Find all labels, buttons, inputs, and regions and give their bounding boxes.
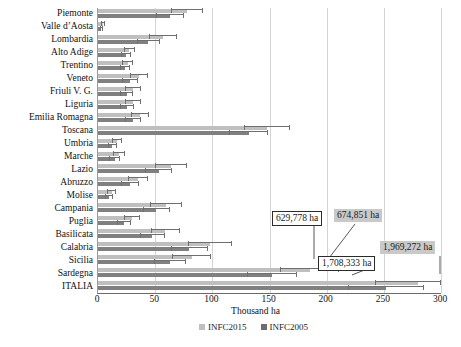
y-tick-label: Emilia Romagna xyxy=(29,112,93,122)
error-bar xyxy=(140,234,165,240)
legend-item-infc2015: INFC2015 xyxy=(199,322,247,332)
bar-row xyxy=(98,8,441,21)
bar-row xyxy=(98,267,441,280)
y-tick-label: Toscana xyxy=(62,125,93,135)
error-bar xyxy=(100,27,103,33)
error-bar xyxy=(108,144,117,150)
bar-row xyxy=(98,280,441,293)
bar-row xyxy=(98,112,441,125)
legend: INFC2015 INFC2005 xyxy=(0,322,461,332)
error-bar xyxy=(109,157,119,163)
x-tick-label: 300 xyxy=(433,294,447,304)
callout-1708333: 1,708,333 ha xyxy=(318,256,375,271)
y-tick-label: Marche xyxy=(64,151,93,161)
y-tick-label: Sardegna xyxy=(58,268,93,278)
bar-infc2005 xyxy=(98,286,386,290)
y-tick-label: Campania xyxy=(54,203,93,213)
callout-1969272: 1,969,272 ha xyxy=(380,241,435,254)
error-bar xyxy=(247,273,297,279)
bar-chart: PiemonteValle d’AostaLombardiaAlto Adige… xyxy=(0,0,461,347)
bar-row xyxy=(98,99,441,112)
y-tick-label: Trentino xyxy=(61,60,93,70)
legend-label: INFC2015 xyxy=(208,322,247,332)
bar-infc2015 xyxy=(98,268,310,272)
bar-infc2015 xyxy=(98,126,267,130)
bar-row xyxy=(98,215,441,228)
error-bar xyxy=(154,260,186,266)
x-tick-label: 50 xyxy=(149,294,159,304)
bar-row xyxy=(98,254,441,267)
x-tick-label: 150 xyxy=(261,294,275,304)
callout-674851: 674,851 ha xyxy=(334,209,382,222)
error-bar xyxy=(348,286,423,292)
error-bar xyxy=(121,182,139,188)
gridline xyxy=(441,8,442,293)
y-tick-label: Puglia xyxy=(69,216,93,226)
y-tick-label: Liguria xyxy=(65,99,93,109)
y-tick-label: Sicilia xyxy=(69,255,93,265)
y-tick-label: Calabria xyxy=(61,242,93,252)
bar-row xyxy=(98,60,441,73)
error-bar xyxy=(229,131,268,137)
y-tick-label: Piemonte xyxy=(57,8,93,18)
error-bar xyxy=(125,118,141,124)
bar-row xyxy=(98,125,441,138)
y-axis-labels: PiemonteValle d’AostaLombardiaAlto Adige… xyxy=(0,8,93,293)
bar-infc2015 xyxy=(98,281,418,285)
y-tick-label: Basilicata xyxy=(56,229,93,239)
bar-row xyxy=(98,34,441,47)
bar-row xyxy=(98,176,441,189)
bar-row xyxy=(98,47,441,60)
y-tick-label: Veneto xyxy=(67,73,93,83)
y-tick-label: Lombardia xyxy=(51,34,93,44)
error-bar xyxy=(156,14,183,20)
error-bar xyxy=(105,195,113,201)
y-tick-label: Alto Adige xyxy=(51,47,93,57)
error-bar xyxy=(121,53,131,59)
bar-row xyxy=(98,86,441,99)
error-bar xyxy=(117,221,131,227)
y-tick-label: Abruzzo xyxy=(60,177,93,187)
x-tick-label: 250 xyxy=(376,294,390,304)
y-tick-label: Molise xyxy=(67,190,93,200)
bar-row xyxy=(98,228,441,241)
x-tick-label: 0 xyxy=(95,294,100,304)
bar-row xyxy=(98,202,441,215)
bar-row xyxy=(98,163,441,176)
bar-infc2005 xyxy=(98,131,249,135)
y-tick-label: Friuli V. G. xyxy=(50,86,93,96)
legend-item-infc2005: INFC2005 xyxy=(261,322,309,332)
bar-row xyxy=(98,189,441,202)
bar-row xyxy=(98,138,441,151)
y-tick-label: Lazio xyxy=(71,164,93,174)
y-tick-label: Valle d’Aosta xyxy=(41,21,93,31)
callout-629778: 629,778 ha xyxy=(272,211,322,226)
error-bar xyxy=(120,66,130,72)
x-tick-label: 200 xyxy=(319,294,333,304)
bar-row xyxy=(98,73,441,86)
bar-row xyxy=(98,21,441,34)
error-bar xyxy=(120,92,134,98)
error-bar xyxy=(143,208,170,214)
y-tick-label: Umbria xyxy=(64,138,93,148)
error-bar xyxy=(120,105,134,111)
error-bar xyxy=(171,247,208,253)
legend-label: INFC2005 xyxy=(270,322,309,332)
y-tick-label: ITALIA xyxy=(62,281,93,291)
x-tick-label: 100 xyxy=(204,294,218,304)
error-bar xyxy=(137,40,160,46)
legend-swatch-icon xyxy=(199,324,205,330)
error-bar xyxy=(145,169,172,175)
legend-swatch-icon xyxy=(261,324,267,330)
error-bar xyxy=(122,79,138,85)
bar-row xyxy=(98,151,441,164)
x-axis-title: Thousand ha xyxy=(0,306,461,316)
